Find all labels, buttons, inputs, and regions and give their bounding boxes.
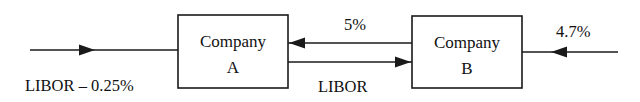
flow-external-inflow-a: [30, 45, 178, 56]
flow-fixed-b-to-a: [288, 38, 412, 49]
external-inflow-b-arrowhead: [551, 47, 567, 58]
swap-diagram: Company A Company B LIBOR – 0.25% 5% LIB…: [0, 0, 640, 102]
company-a-node: [178, 15, 288, 88]
external-inflow-a-label: LIBOR – 0.25%: [25, 76, 134, 95]
company-a-label-line1: Company: [200, 32, 267, 51]
swap-diagram-canvas: Company A Company B LIBOR – 0.25% 5% LIB…: [0, 0, 640, 102]
flow-external-inflow-b: [522, 47, 618, 58]
external-inflow-b-label: 4.7%: [556, 22, 591, 41]
company-a-label-line2: A: [227, 58, 240, 77]
company-b-label-line2: B: [461, 59, 472, 78]
fixed-b-to-a-arrowhead: [289, 38, 305, 49]
floating-a-to-b-arrowhead: [395, 57, 411, 68]
floating-a-to-b-label: LIBOR: [318, 77, 368, 96]
fixed-b-to-a-label: 5%: [344, 15, 366, 34]
flow-floating-a-to-b: [288, 57, 412, 68]
company-b-label-line1: Company: [434, 33, 501, 52]
company-a-box: [178, 15, 288, 88]
external-inflow-a-arrowhead: [79, 45, 95, 56]
